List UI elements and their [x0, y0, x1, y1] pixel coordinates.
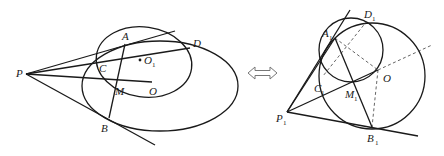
- label-A1-subscript: 1: [329, 34, 333, 42]
- label-B1-subscript: 1: [375, 139, 379, 147]
- label-D: D: [192, 37, 201, 49]
- label-O1: O: [144, 54, 152, 66]
- dashed-O-B1: [372, 70, 378, 127]
- label-D1: D: [363, 8, 372, 20]
- label-D1-subscript: 1: [372, 15, 376, 23]
- label-A: A: [121, 30, 129, 42]
- label-B1: B: [367, 132, 374, 144]
- right-diagram: P 1 A 1 D 1 C 1 M 1 O B 1: [275, 8, 432, 147]
- label-C: C: [99, 62, 107, 74]
- point-O1: [139, 59, 142, 62]
- label-O: O: [149, 85, 157, 97]
- line-P1-B1-tangent: [287, 112, 418, 136]
- dashed-D1-C1: [323, 21, 367, 76]
- label-P1: P: [275, 112, 283, 124]
- label-P: P: [15, 67, 23, 79]
- line-P-B-tangent: [26, 74, 155, 145]
- left-diagram: P A D C O 1 M O B: [15, 21, 238, 145]
- geometry-figure: P A D C O 1 M O B P 1 A 1 D 1: [0, 0, 444, 156]
- label-O1-subscript: 1: [152, 61, 156, 69]
- line-P-M-O: [26, 74, 152, 82]
- label-M1-subscript: 1: [354, 95, 358, 103]
- label-B: B: [101, 122, 108, 134]
- line-A-B: [109, 44, 125, 118]
- label-A1: A: [321, 27, 329, 39]
- label-O: O: [383, 72, 391, 84]
- label-P1-subscript: 1: [283, 119, 287, 127]
- label-C1-subscript: 1: [321, 89, 325, 97]
- label-M: M: [114, 85, 125, 97]
- double-arrow-icon: [248, 67, 277, 79]
